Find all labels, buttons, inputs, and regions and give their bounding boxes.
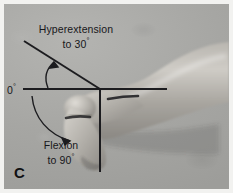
degree-symbol-icon: °	[13, 82, 16, 91]
hyperextension-label-line2: to 30°	[35, 35, 117, 50]
photograph: Hyperextension to 30° Flexion to 90° 0° …	[4, 4, 229, 189]
degree-symbol-icon: °	[86, 36, 89, 45]
flexion-label-line2: to 90°	[30, 151, 92, 166]
panel-letter-label: C	[14, 164, 25, 181]
flexion-arrow	[32, 96, 70, 145]
flexion-label-line1: Flexion	[44, 139, 79, 151]
neutral-zero-label: 0°	[7, 81, 16, 96]
figure-panel-c: Hyperextension to 30° Flexion to 90° 0° …	[0, 0, 233, 193]
hyperextension-label: Hyperextension to 30°	[35, 24, 117, 50]
flexion-label: Flexion to 90°	[30, 140, 92, 166]
hyperextension-label-line1: Hyperextension	[39, 23, 113, 35]
degree-symbol-icon: °	[71, 152, 74, 161]
hyperextension-arrow	[46, 62, 58, 88]
